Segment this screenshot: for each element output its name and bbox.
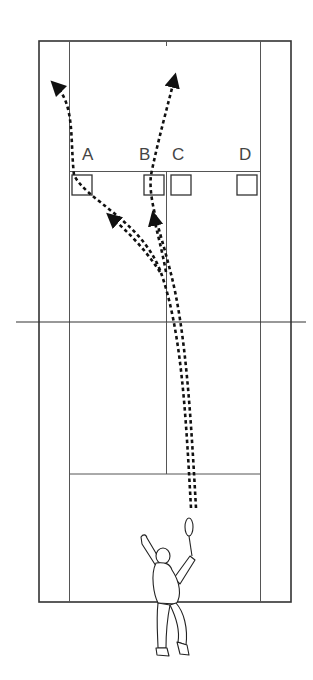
racket-icon — [185, 518, 193, 536]
target-boxes — [72, 175, 257, 195]
right-foot — [177, 642, 189, 655]
trajectory-to-a — [112, 218, 160, 272]
court-lines — [16, 41, 306, 602]
label-c: C — [172, 145, 184, 164]
tennis-court-diagram: A B C D — [0, 0, 313, 680]
torso — [153, 563, 180, 604]
head — [156, 548, 170, 564]
label-d: D — [239, 145, 251, 164]
label-b: B — [139, 145, 150, 164]
target-box-b — [144, 175, 164, 195]
racket-handle — [189, 536, 192, 556]
target-box-d — [237, 175, 257, 195]
target-box-c — [171, 175, 191, 195]
left-foot — [156, 648, 169, 656]
target-labels: A B C D — [82, 145, 251, 164]
label-a: A — [82, 145, 94, 164]
tennis-player-figure — [141, 518, 195, 656]
trajectory-deep-left — [56, 86, 191, 508]
left-leg — [157, 603, 170, 648]
right-leg — [170, 603, 187, 645]
